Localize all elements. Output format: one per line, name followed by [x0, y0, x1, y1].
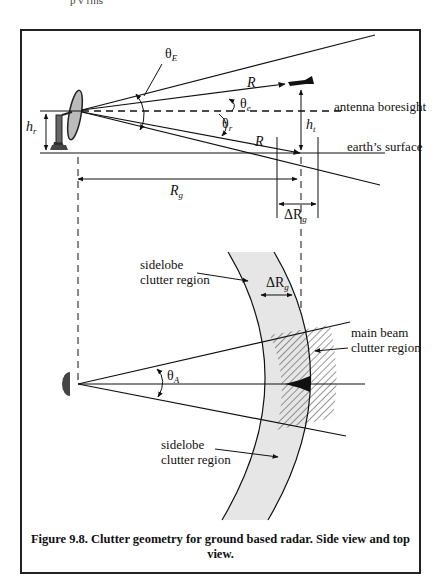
- label-sidelobe-upper-1: sidelobe: [140, 258, 183, 271]
- label-theta-r: θr: [222, 117, 232, 133]
- label-theta-A: θA: [167, 369, 179, 385]
- label-main-beam-2: clutter region: [351, 341, 421, 354]
- radar-topview-icon: [62, 372, 70, 396]
- side-view: [40, 35, 385, 390]
- label-theta-e: θe: [240, 97, 251, 113]
- clutter-geometry-diagram: [0, 0, 443, 578]
- label-main-beam-1: main beam: [351, 326, 408, 339]
- label-R-lower: R: [255, 135, 264, 149]
- label-theta-E: θE: [165, 47, 177, 63]
- label-sidelobe-lower-1: sidelobe: [161, 438, 204, 451]
- label-h-t: ht: [306, 118, 316, 134]
- figure-caption: Figure 9.8. Clutter geometry for ground …: [20, 532, 421, 562]
- target-aircraft-icon: [288, 76, 314, 86]
- top-view: [62, 252, 365, 520]
- label-R-g: Rg: [170, 184, 183, 200]
- label-earths-surface: earth’s surface: [347, 140, 422, 153]
- label-sidelobe-lower-2: clutter region: [161, 453, 231, 466]
- label-antenna-boresight: antenna boresight: [334, 100, 426, 113]
- label-sidelobe-upper-2: clutter region: [140, 273, 210, 286]
- label-R-upper: R: [247, 76, 256, 90]
- label-delta-R-g-side: ΔRg: [284, 208, 307, 224]
- label-delta-R-g-top: ΔRg: [266, 276, 289, 292]
- label-h-r: hr: [26, 120, 37, 136]
- radar-antenna-icon: [50, 89, 85, 150]
